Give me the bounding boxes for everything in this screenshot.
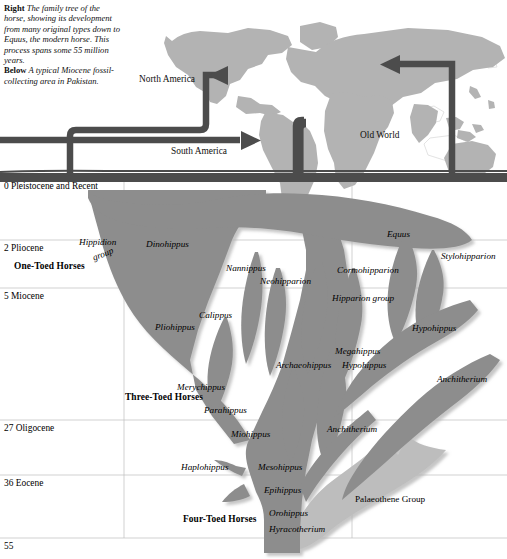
taxon-label-orohippus: Orohippus: [269, 508, 308, 518]
map-label-old-world: Old World: [360, 130, 399, 140]
taxon-label-neohipparion: Neohipparion: [260, 276, 311, 286]
caption-below-tag: Below: [4, 65, 26, 75]
timescale-epoch: Miocene: [9, 291, 44, 301]
figure-caption: Right The family tree of the horse, show…: [4, 3, 120, 86]
taxon-label-archaeohippus: Archaeohippus: [276, 360, 331, 370]
taxon-label-equus: Equus: [387, 229, 410, 239]
taxon-label-hypohippus-upper: Hypohippus: [412, 323, 456, 333]
taxon-label-anchitherium-lower: Anchitherium: [327, 424, 377, 434]
timescale-row-2: 5 Miocene: [4, 291, 44, 301]
map-label-south-america: South America: [171, 146, 227, 156]
timescale-epoch: Pleistocene and Recent: [9, 181, 98, 191]
taxon-label-parahippus: Parahippus: [204, 405, 247, 415]
timescale-row-4: 36 Eocene: [4, 478, 43, 488]
timescale-value: 36: [4, 478, 13, 488]
taxon-label-hipparion-group: Hipparion group: [332, 293, 394, 303]
timescale-epoch: Eocene: [13, 478, 43, 488]
caption-right-tag: Right: [4, 3, 25, 13]
taxon-label-epihippus: Epihippus: [264, 485, 301, 495]
taxon-label-merychippus: Merychippus: [177, 382, 225, 392]
taxon-label-haplohippus: Haplohippus: [181, 462, 228, 472]
taxon-label-stylohipparion: Stylohipparion: [441, 251, 496, 261]
taxon-label-hypohippus-lower: Hypohippus: [342, 360, 386, 370]
timescale-row-3: 27 Oligocene: [4, 423, 54, 433]
timescale-value: 55: [4, 541, 13, 551]
timescale-epoch: Oligocene: [13, 423, 54, 433]
taxon-label-anchitherium-upper: Anchitherium: [437, 374, 487, 384]
timescale-value: 27: [4, 423, 13, 433]
taxon-label-nannippus: Nannippus: [226, 263, 266, 273]
map-label-north-america: North America: [139, 74, 195, 84]
group-label-three-toed-horses: Three-Toed Horses: [125, 392, 203, 402]
group-label-four-toed-horses: Four-Toed Horses: [183, 514, 257, 524]
horse-family-tree-figure: Right The family tree of the horse, show…: [0, 0, 507, 559]
taxon-label-pliohippus: Pliohippus: [155, 322, 195, 332]
timescale-row-1: 2 Pliocene: [4, 243, 43, 253]
taxon-label-cormohipparion: Cormohipparion: [337, 265, 399, 275]
timescale-epoch: Pliocene: [9, 243, 44, 253]
taxon-label-dinohippus: Dinohippus: [146, 239, 189, 249]
timescale-row-0: 0 Pleistocene and Recent: [4, 181, 98, 191]
group-label-one-toed-horses: One-Toed Horses: [14, 261, 85, 271]
taxon-label-mesohippus: Mesohippus: [258, 462, 302, 472]
taxon-label-megahippus: Megahippus: [335, 346, 380, 356]
taxon-label-hyracotherium: Hyracotherium: [269, 524, 325, 534]
timescale-row-5: 55: [4, 541, 13, 551]
taxon-label-calippus: Calippus: [199, 310, 232, 320]
taxon-label-palaeothene-group: Palaeothene Group: [355, 494, 425, 504]
taxon-label-miohippus: Miohippus: [231, 429, 270, 439]
